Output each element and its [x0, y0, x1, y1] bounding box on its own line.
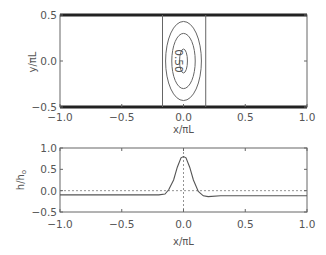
bottom-x-axis-label: x/πL [173, 236, 194, 247]
y-tick-label: 0.5 [40, 9, 57, 21]
x-tick-label: −1.0 [47, 218, 73, 230]
x-tick-label: 0.5 [237, 111, 254, 123]
contour-label: 0.50 [173, 49, 185, 72]
bottom-y-ticks: 1.00.50.0−0.5 [32, 142, 308, 218]
y-tick-label: 1.0 [40, 142, 57, 154]
x-tick-label: −0.5 [109, 111, 135, 123]
top-x-axis-label: x/πL [173, 124, 194, 135]
y-tick-label: 0.5 [40, 163, 57, 175]
x-tick-label: −0.5 [109, 218, 135, 230]
x-tick-label: 0.0 [175, 111, 192, 123]
reference-dotted-lines [60, 148, 307, 212]
bottom-y-axis-label: h/ho [15, 170, 28, 190]
x-tick-label: 0.0 [175, 218, 192, 230]
bottom-x-ticks: −1.0−0.50.00.51.0 [47, 148, 315, 230]
figure: 0.50 −1.0−0.50.00.51.0 0.50.0−0.5 y/πL −… [0, 0, 326, 255]
top-y-ticks: 0.50.0−0.5 [32, 9, 308, 113]
y-tick-label: −0.5 [32, 206, 58, 218]
y-tick-label: −0.5 [32, 101, 58, 113]
x-tick-label: 0.5 [237, 218, 254, 230]
x-tick-label: 1.0 [299, 218, 316, 230]
top-y-axis-label: y/πL [27, 51, 38, 72]
x-tick-label: 1.0 [299, 111, 316, 123]
contour-plot-panel: 0.50 −1.0−0.50.00.51.0 0.50.0−0.5 y/πL [27, 9, 315, 123]
height-profile-panel: −1.0−0.50.00.51.0 1.00.50.0−0.5 h/ho x/π… [15, 142, 315, 247]
y-tick-label: 0.0 [40, 55, 57, 67]
y-tick-label: 0.0 [40, 185, 57, 197]
